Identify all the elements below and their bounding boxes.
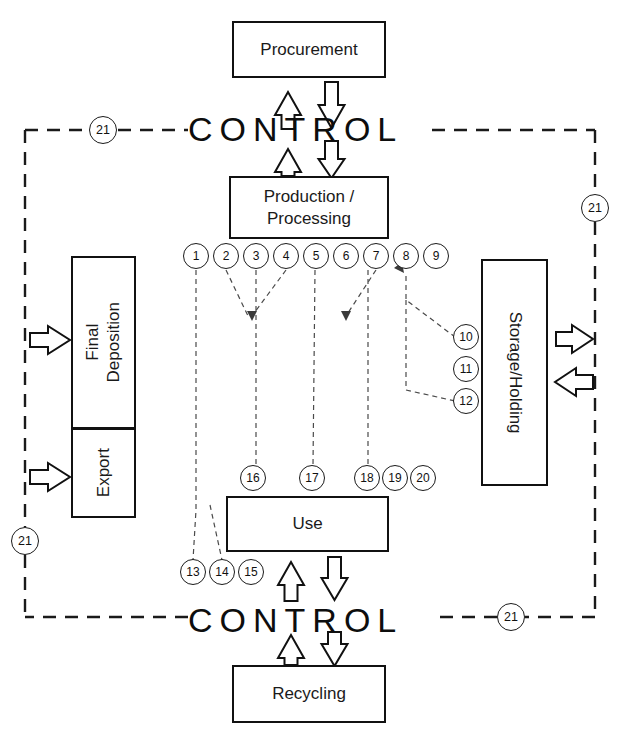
box-storage-holding-label: Storage/Holding: [504, 312, 525, 434]
flow-node-12-label: 12: [459, 394, 472, 408]
flow-node-9-label: 9: [433, 249, 440, 263]
flow-node-15-label: 15: [244, 565, 257, 579]
flow-node-5[interactable]: 5: [303, 243, 329, 269]
connector-4-to-3: [252, 270, 286, 316]
flow-node-12[interactable]: 12: [453, 388, 479, 414]
flow-node-10[interactable]: 10: [453, 324, 479, 350]
flow-node-20-label: 20: [416, 471, 429, 485]
boundary-marker-21-top-left-label: 21: [96, 123, 110, 137]
box-recycling[interactable]: Recycling: [232, 665, 386, 723]
box-export[interactable]: Export: [71, 428, 136, 518]
boundary-marker-21-bottom-right[interactable]: 21: [497, 603, 525, 631]
box-procurement[interactable]: Procurement: [232, 21, 386, 78]
flow-node-18[interactable]: 18: [354, 465, 380, 491]
connector-7-fork-a: [346, 270, 376, 316]
boundary-marker-21-bottom-right-label: 21: [504, 610, 518, 624]
box-use-label: Use: [292, 513, 322, 534]
arrow-right-final-deposition: [30, 326, 70, 354]
flow-node-17[interactable]: 17: [299, 465, 325, 491]
flow-node-13-label: 13: [186, 565, 199, 579]
arrow-up-production: [275, 149, 301, 176]
flow-node-14-label: 14: [215, 565, 228, 579]
flow-node-19[interactable]: 19: [382, 465, 408, 491]
box-production-processing-label: Production / Processing: [264, 186, 355, 229]
boundary-marker-21-top-left[interactable]: 21: [89, 116, 117, 144]
flow-node-17-label: 17: [305, 471, 318, 485]
control-label-top: CONTROL: [188, 110, 403, 149]
flow-node-4[interactable]: 4: [273, 243, 299, 269]
connector-8-to-10: [406, 276, 455, 337]
flow-node-2[interactable]: 2: [213, 243, 239, 269]
flow-node-11[interactable]: 11: [453, 356, 479, 382]
flow-node-16-label: 16: [246, 471, 259, 485]
box-export-label: Export: [93, 448, 114, 497]
box-production-processing[interactable]: Production / Processing: [229, 176, 389, 239]
connector-1-to-13: [193, 270, 196, 560]
box-recycling-label: Recycling: [272, 683, 346, 704]
flow-node-9[interactable]: 9: [423, 243, 449, 269]
connector-14-diagonal: [210, 505, 222, 560]
boundary-marker-21-right-upper-label: 21: [588, 201, 602, 215]
flow-node-13[interactable]: 13: [180, 559, 206, 585]
flow-node-3[interactable]: 3: [243, 243, 269, 269]
arrow-right-storage-out: [556, 325, 593, 353]
arrow-right-export: [30, 463, 70, 491]
arrowhead-into-7: [341, 311, 351, 321]
diagram-canvas: Procurement Production / Processing Use …: [0, 0, 620, 745]
connector-2-to-3: [226, 270, 248, 316]
flow-node-4-label: 4: [283, 249, 290, 263]
flow-node-6[interactable]: 6: [333, 243, 359, 269]
flow-node-14[interactable]: 14: [209, 559, 235, 585]
box-use[interactable]: Use: [226, 496, 389, 552]
flow-node-7[interactable]: 7: [363, 243, 389, 269]
boundary-marker-21-left-lower-label: 21: [18, 534, 32, 548]
flow-node-18-label: 18: [360, 471, 373, 485]
connector-5-down: [313, 270, 315, 466]
flow-node-11-label: 11: [460, 362, 472, 376]
box-final-deposition[interactable]: Final Deposition: [71, 256, 136, 429]
box-final-deposition-label: Final Deposition: [82, 302, 125, 382]
flow-node-3-label: 3: [253, 249, 260, 263]
boundary-marker-21-right-upper[interactable]: 21: [581, 194, 609, 222]
flow-node-10-label: 10: [459, 330, 472, 344]
flow-node-1-label: 1: [193, 249, 200, 263]
flow-node-8[interactable]: 8: [393, 243, 419, 269]
box-storage-holding[interactable]: Storage/Holding: [481, 259, 548, 486]
flow-node-5-label: 5: [313, 249, 320, 263]
connector-arrowheads: [247, 262, 404, 321]
connector-8-to-12: [406, 300, 455, 401]
flow-node-16[interactable]: 16: [240, 465, 266, 491]
flow-node-1[interactable]: 1: [183, 243, 209, 269]
flow-node-6-label: 6: [343, 249, 350, 263]
flow-node-20[interactable]: 20: [410, 465, 436, 491]
flow-node-8-label: 8: [403, 249, 410, 263]
flow-node-15[interactable]: 15: [238, 559, 264, 585]
arrow-down-use: [322, 557, 348, 600]
boundary-marker-21-left-lower[interactable]: 21: [11, 527, 39, 555]
box-procurement-label: Procurement: [260, 39, 357, 60]
flow-node-2-label: 2: [223, 249, 230, 263]
flow-node-19-label: 19: [388, 471, 401, 485]
flow-node-7-label: 7: [373, 249, 380, 263]
arrow-up-use: [278, 562, 304, 601]
control-label-bottom: CONTROL: [188, 601, 403, 640]
arrow-left-storage-in: [555, 368, 593, 396]
